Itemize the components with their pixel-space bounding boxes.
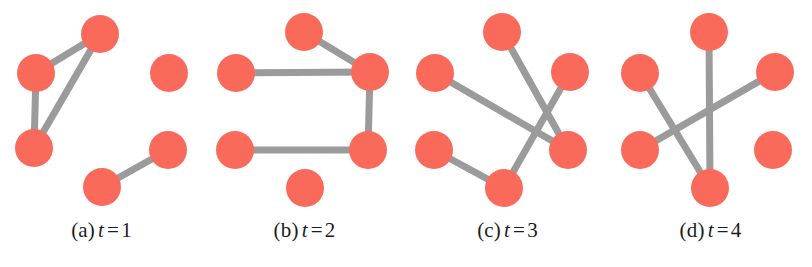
graph-node — [551, 53, 589, 91]
caption-equals-a: = — [105, 218, 121, 242]
graph-node — [351, 53, 389, 91]
graph-node — [81, 15, 119, 53]
graph-node — [415, 131, 453, 169]
graph-node — [483, 13, 521, 51]
graph-node — [216, 131, 254, 169]
caption-prefix-d: (d) — [680, 218, 705, 242]
graph-node — [416, 54, 454, 92]
graph-node — [754, 131, 792, 169]
graph-node — [349, 131, 387, 169]
graph-panel-a: (a)t=1 — [0, 0, 203, 267]
graph-node — [621, 54, 659, 92]
graph-panel-c: (c)t=3 — [406, 0, 609, 267]
panel-caption-a: (a)t=1 — [0, 218, 203, 243]
graph-panel-b: (b)t=2 — [203, 0, 406, 267]
graph-node — [149, 131, 187, 169]
caption-equals-c: = — [511, 218, 527, 242]
caption-variable-b: t — [299, 218, 309, 242]
graph-node — [691, 169, 729, 207]
caption-variable-d: t — [705, 218, 715, 242]
panel-caption-c: (c)t=3 — [406, 218, 609, 243]
graph-node — [690, 13, 728, 51]
caption-value-b: 2 — [325, 218, 336, 242]
graph-canvas-c — [406, 0, 609, 210]
graph-node — [286, 169, 324, 207]
caption-prefix-b: (b) — [274, 218, 299, 242]
graph-node — [15, 129, 53, 167]
caption-value-a: 1 — [121, 218, 132, 242]
caption-prefix-a: (a) — [71, 218, 95, 242]
caption-equals-b: = — [309, 218, 325, 242]
graph-node — [150, 54, 188, 92]
graph-node — [549, 131, 587, 169]
graph-edge — [236, 72, 370, 73]
caption-variable-a: t — [95, 218, 105, 242]
temporal-graph-figure: (a)t=1 (b)t=2 (c)t=3 (d)t=4 — [0, 0, 812, 267]
graph-canvas-d — [609, 0, 812, 210]
panel-caption-b: (b)t=2 — [203, 218, 406, 243]
graph-panel-d: (d)t=4 — [609, 0, 812, 267]
graph-node — [17, 54, 55, 92]
caption-equals-d: = — [715, 218, 731, 242]
graph-node — [621, 131, 659, 169]
graph-node — [217, 54, 255, 92]
graph-canvas-a — [0, 0, 203, 210]
graph-canvas-b — [203, 0, 406, 210]
panel-caption-d: (d)t=4 — [609, 218, 812, 243]
graph-node — [83, 168, 121, 206]
caption-prefix-c: (c) — [477, 218, 501, 242]
caption-variable-c: t — [501, 218, 511, 242]
caption-value-d: 4 — [731, 218, 742, 242]
graph-node — [285, 13, 323, 51]
graph-node — [756, 53, 794, 91]
caption-value-c: 3 — [527, 218, 538, 242]
graph-node — [485, 169, 523, 207]
